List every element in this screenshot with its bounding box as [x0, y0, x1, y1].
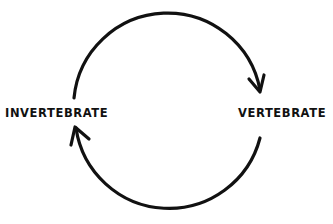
arrow-invertebrate-to-vertebrate: [74, 13, 264, 98]
node-invertebrate: INVERTEBRATE: [5, 106, 108, 120]
cycle-diagram: INVERTEBRATE VERTEBRATE: [0, 0, 333, 224]
node-vertebrate: VERTEBRATE: [238, 106, 326, 120]
arrow-vertebrate-to-invertebrate: [71, 127, 260, 208]
